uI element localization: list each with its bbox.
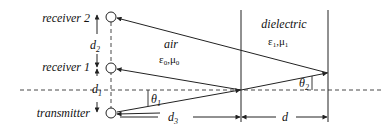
receiver-2-antenna	[106, 12, 116, 22]
transmitter-antenna	[106, 108, 116, 118]
ray-interface-to-receiver1	[117, 69, 241, 90]
d2-label: d2	[90, 38, 100, 54]
theta2-label: θ2	[299, 76, 309, 92]
d3-label: d3	[168, 110, 178, 126]
ray-interface-to-backwall	[241, 73, 327, 90]
d-label: d	[282, 110, 289, 124]
d1-label: d1	[92, 82, 102, 98]
theta1-label: θ1	[151, 92, 161, 108]
ray-transmitter-return	[117, 113, 160, 114]
air-label: air	[164, 37, 178, 51]
transmitter-label: transmitter	[37, 106, 91, 120]
receiver-1-antenna	[106, 63, 116, 73]
receiver-2-label: receiver 2	[42, 11, 90, 25]
propagation-diagram: receiver 2 receiver 1 transmitter d2 d1 …	[0, 0, 386, 128]
dielectric-params-label: ε1,μ1	[268, 35, 289, 49]
air-params-label: ε0,μ0	[159, 53, 180, 67]
receiver-1-label: receiver 1	[42, 60, 90, 74]
dielectric-label: dielectric	[261, 17, 307, 31]
ray-transmitter-to-interface	[117, 90, 240, 112]
